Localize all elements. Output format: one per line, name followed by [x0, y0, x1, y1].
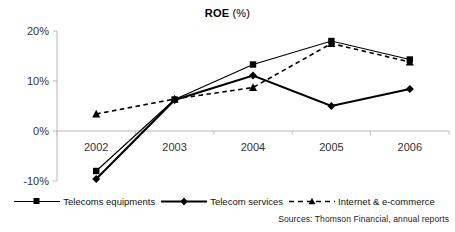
y-tick-label: 10%: [27, 75, 49, 87]
legend-item-telecoms-equipments[interactable]: Telecoms equipments: [14, 196, 161, 207]
data-point-marker-diamond: [406, 85, 414, 93]
y-tick-label: 20%: [27, 25, 49, 37]
x-tick-label: 2005: [319, 141, 343, 153]
legend-label-internet-ecommerce: Internet & e-commerce: [338, 196, 435, 207]
series-line-1: [96, 76, 410, 180]
x-tick-label: 2003: [162, 141, 186, 153]
source-note: Sources: Thomson Financial, annual repor…: [278, 214, 449, 224]
data-point-marker-diamond: [327, 102, 335, 110]
x-tick-label: 2006: [398, 141, 422, 153]
chart-legend: Telecoms equipments Telecom services Int…: [0, 193, 455, 209]
legend-swatch-square-solid: [14, 196, 60, 207]
y-tick-label: -10%: [23, 175, 49, 187]
legend-label-telecoms-equipments: Telecoms equipments: [63, 196, 155, 207]
data-point-marker-triangle: [249, 83, 257, 91]
data-point-marker-square: [250, 61, 256, 67]
legend-item-telecom-services[interactable]: Telecom services: [161, 196, 289, 207]
data-point-marker-diamond: [249, 72, 257, 80]
x-tick-label: 2002: [84, 141, 108, 153]
x-tick-label: 2004: [241, 141, 265, 153]
legend-label-telecom-services: Telecom services: [210, 196, 283, 207]
data-point-marker-square: [93, 168, 99, 174]
legend-item-internet-ecommerce[interactable]: Internet & e-commerce: [289, 196, 441, 207]
y-tick-label: 0%: [33, 125, 49, 137]
roe-line-chart: ROE (%) 20%10%0%-10%20022003200420052006…: [0, 0, 455, 232]
legend-swatch-diamond-solid: [161, 196, 207, 207]
legend-swatch-triangle-dashed: [289, 196, 335, 207]
